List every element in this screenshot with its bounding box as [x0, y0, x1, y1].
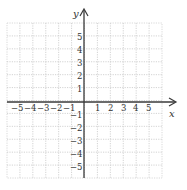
y-tick-label: 4 — [77, 45, 82, 55]
coordinate-plane: y x −5 −4 −3 −2 −1 1 2 3 4 5 5 4 3 2 1 −… — [0, 0, 187, 190]
y-tick-label: −4 — [70, 149, 83, 159]
y-tick-label: 3 — [77, 58, 82, 68]
x-tick-label: 2 — [108, 103, 113, 113]
x-axis-label: x — [169, 108, 175, 119]
y-tick-label: 2 — [77, 71, 82, 81]
y-tick-label: −1 — [70, 110, 83, 120]
x-tick-label: 5 — [146, 103, 151, 113]
x-tick-label: 4 — [133, 103, 138, 113]
y-tick-label: 1 — [77, 84, 82, 94]
x-tick-label: −3 — [37, 103, 50, 113]
x-tick-label: −5 — [11, 103, 24, 113]
y-tick-label: −3 — [70, 136, 83, 146]
x-tick-label: 1 — [95, 103, 100, 113]
x-tick-label: −4 — [24, 103, 37, 113]
y-axis-label: y — [72, 8, 79, 19]
y-tick-label: −2 — [70, 123, 83, 133]
y-tick-label: 5 — [77, 32, 82, 42]
y-tick-label: −5 — [70, 162, 83, 172]
x-tick-label: −2 — [50, 103, 63, 113]
x-tick-label: 3 — [121, 103, 126, 113]
